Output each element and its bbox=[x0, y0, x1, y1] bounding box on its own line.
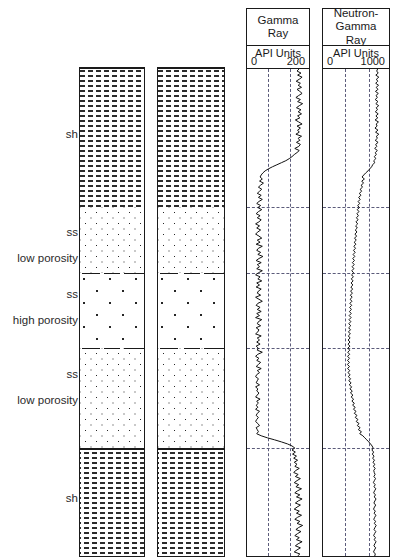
bed-contact bbox=[158, 447, 224, 450]
track-neutron-gamma-ray-header: Neutron- Gamma Ray bbox=[323, 9, 389, 46]
lithology-unit-shale-upper bbox=[158, 69, 224, 207]
lithology-unit-sandstone-low-2 bbox=[158, 348, 224, 448]
track-title-line: Ray bbox=[258, 27, 299, 41]
label-line: high porosity bbox=[0, 314, 78, 327]
lithology-label-ss-high: ss high porosity bbox=[0, 288, 78, 327]
track-gamma-ray-scale-header: API Units 0 200 bbox=[247, 46, 309, 69]
label-line: low porosity bbox=[0, 252, 78, 265]
lithology-label-sh-lower: sh bbox=[0, 492, 78, 505]
gamma-ray-curve bbox=[247, 69, 309, 556]
bed-contact bbox=[80, 347, 144, 350]
label-line: ss bbox=[0, 288, 78, 301]
lithology-unit-sandstone-low-1 bbox=[80, 207, 144, 273]
lithology-column-2 bbox=[157, 67, 225, 557]
lithology-unit-shale-lower bbox=[80, 448, 144, 557]
lithology-unit-sandstone-high bbox=[80, 273, 144, 348]
lithology-label-ss-low-2: ss low porosity bbox=[0, 368, 78, 407]
track-title: Gamma Ray bbox=[258, 14, 299, 41]
lithology-unit-shale-upper bbox=[80, 69, 144, 207]
label-line: sh bbox=[0, 492, 78, 505]
track-scale-row: 0 1000 bbox=[327, 55, 385, 67]
neutron-gamma-ray-curve-area bbox=[323, 69, 389, 556]
track-neutron-gamma-ray-scale-header: API Units 0 1000 bbox=[323, 46, 389, 69]
scale-max: 200 bbox=[287, 55, 305, 67]
lithology-column-1 bbox=[79, 67, 145, 557]
scale-min: 0 bbox=[251, 55, 257, 67]
track-title-line: Neutron- bbox=[334, 7, 379, 21]
bed-contact bbox=[158, 272, 224, 275]
gamma-ray-curve-area bbox=[247, 69, 309, 556]
bed-contact bbox=[80, 447, 144, 450]
scale-min: 0 bbox=[327, 55, 333, 67]
lithology-label-group: sh ss low porosity ss high porosity ss l… bbox=[0, 0, 78, 558]
lithology-unit-sandstone-high bbox=[158, 273, 224, 348]
label-line: low porosity bbox=[0, 394, 78, 407]
track-title-line: Gamma bbox=[334, 20, 379, 34]
lithology-unit-sandstone-low-1 bbox=[158, 207, 224, 273]
label-line: ss bbox=[0, 368, 78, 381]
label-line: ss bbox=[0, 226, 78, 239]
track-title-line: Gamma bbox=[258, 14, 299, 28]
neutron-gamma-ray-curve bbox=[323, 69, 389, 556]
bed-contact bbox=[158, 347, 224, 350]
track-gamma-ray-header: Gamma Ray bbox=[247, 9, 309, 46]
scale-max: 1000 bbox=[361, 55, 385, 67]
lithology-unit-shale-lower bbox=[158, 448, 224, 557]
lithology-label-sh-upper: sh bbox=[0, 128, 78, 141]
track-title: Neutron- Gamma Ray bbox=[334, 7, 379, 48]
bed-contact bbox=[80, 272, 144, 275]
lithology-label-ss-low-1: ss low porosity bbox=[0, 226, 78, 265]
track-gamma-ray: Gamma Ray API Units 0 200 bbox=[246, 8, 310, 557]
track-scale-row: 0 200 bbox=[251, 55, 305, 67]
label-line: sh bbox=[0, 128, 78, 141]
lithology-unit-sandstone-low-2 bbox=[80, 348, 144, 448]
track-neutron-gamma-ray: Neutron- Gamma Ray API Units 0 1000 bbox=[322, 8, 390, 557]
